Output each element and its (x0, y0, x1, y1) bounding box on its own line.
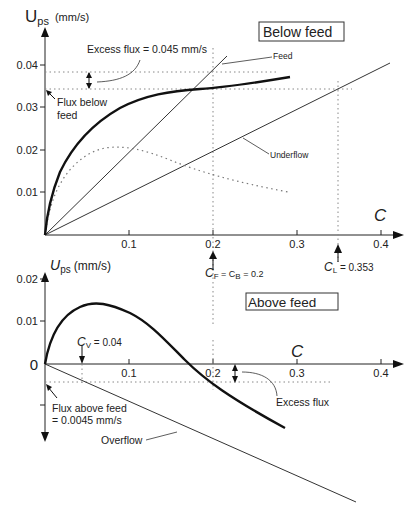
cl-label: CL = 0.353 (324, 260, 374, 275)
bottom-y-tick-label: 0.02 (17, 273, 38, 285)
bottom-x-tick-label: 0.3 (289, 367, 304, 379)
feed-leader (222, 57, 272, 64)
top-y-tick-label: 0.03 (17, 101, 38, 113)
arrow-down-icon (86, 83, 92, 89)
overflow-label: Overflow (101, 434, 143, 446)
batch-flux-curve (45, 147, 288, 235)
cf-cb-label: CF = CB = 0.2 (205, 266, 263, 281)
top-x-tick-label: 0.1 (121, 238, 136, 250)
arrow-up-icon (232, 364, 238, 371)
excess-flux-bottom-label: Excess flux (276, 396, 330, 408)
overflow-leader (146, 432, 177, 440)
top-x-tick-label: 0.2 (205, 238, 220, 250)
bottom-y-axis-up-arrow-icon (41, 272, 49, 282)
bottom-y-ticks (40, 279, 45, 405)
below-feed-panel: 0.04 0.03 0.02 0.01 0.1 0.2 0.3 0.4 Ups(… (17, 7, 404, 325)
underflow-label: Underflow (270, 150, 309, 160)
feed-line (45, 56, 227, 235)
top-x-tick-label: 0.3 (289, 238, 304, 250)
above-feed-panel: 0.02 0.01 0 0.1 0.2 0.3 0.4 Ups(mm/s) C … (17, 257, 404, 502)
top-y-axis-label: Ups(mm/s) (25, 7, 89, 27)
excess-flux-bottom-leader (242, 372, 277, 396)
below-feed-label: Below feed (263, 24, 332, 40)
flux-below-feed-label-2: feed (57, 109, 78, 121)
flux-above-feed-label-2: = 0.0045 mm/s (52, 414, 122, 426)
top-y-ticks (40, 65, 45, 192)
bottom-y-axis-label: Ups(mm/s) (50, 257, 111, 275)
bottom-x-axis-label: C (291, 342, 304, 361)
excess-flux-top-label: Excess flux = 0.045 mm/s (87, 43, 207, 55)
arrow-down-icon (232, 376, 238, 383)
top-y-tick-label: 0.01 (17, 186, 38, 198)
cv-label: CV = 0.04 (77, 335, 122, 350)
bottom-x-tick-label: 0.1 (121, 367, 136, 379)
bottom-x-tick-label: 0.4 (373, 367, 388, 379)
excess-flux-leader (97, 60, 140, 82)
bottom-x-ticks (129, 359, 381, 364)
bottom-x-axis-arrow-icon (393, 360, 404, 368)
bottom-y-tick-label: 0.01 (17, 315, 38, 327)
top-x-axis-arrow-icon (393, 231, 404, 239)
arrow-up-icon (86, 72, 92, 78)
bottom-y-axis-down-arrow-icon (41, 432, 49, 442)
feed-label: Feed (273, 51, 293, 61)
cf-arrow-icon (209, 251, 217, 259)
overflow-line (45, 364, 356, 502)
flux-above-feed-label: Flux above feed (52, 402, 127, 414)
flux-chart: 0.04 0.03 0.02 0.01 0.1 0.2 0.3 0.4 Ups(… (0, 0, 406, 517)
top-x-axis-label: C (374, 206, 387, 225)
top-y-axis-arrow-icon (41, 27, 49, 37)
top-y-tick-label: 0.02 (17, 144, 38, 156)
top-y-tick-label: 0.04 (17, 59, 38, 71)
cv-arrow-icon (79, 356, 85, 364)
cl-arrow-icon (334, 244, 342, 253)
top-x-tick-label: 0.4 (373, 238, 388, 250)
bottom-y-tick-label: 0 (30, 356, 38, 373)
flux-above-arrow-icon (46, 384, 52, 391)
above-feed-label: Above feed (248, 295, 316, 310)
underflow-leader (243, 138, 269, 154)
flux-below-feed-label: Flux below (57, 96, 108, 108)
top-x-ticks (129, 230, 381, 235)
